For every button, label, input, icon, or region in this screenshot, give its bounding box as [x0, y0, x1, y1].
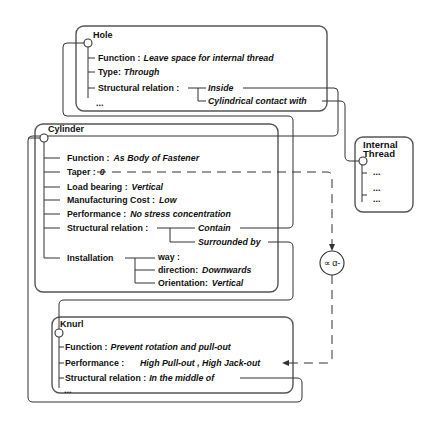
hole-relation-cylindrical-contact: Cylindrical contact with [208, 96, 307, 106]
hole-function: Function :Leave space for internal threa… [98, 53, 274, 63]
cylinder-node-dot-icon [40, 134, 48, 142]
cylinder-load-bearing: Load bearing :Vertical [67, 182, 164, 192]
installation-direction: direction:Downwards [158, 265, 252, 275]
internal-thread-title-line2: Thread [363, 148, 395, 159]
cylinder-taper: Taper :0 [67, 167, 105, 177]
hole-more: ... [96, 98, 103, 108]
internal-thread-item: ... [373, 167, 380, 177]
knurl-title: Knurl [60, 319, 84, 329]
cylinder-installation-branch [125, 258, 155, 283]
feature-semantic-diagram: ∝ α- Hole Function :Leave space for inte… [0, 0, 433, 426]
knurl-more: ... [64, 385, 71, 395]
internal-thread-tree-line [362, 165, 367, 202]
cylinder-tree-line [44, 142, 60, 258]
hole-structural-relation-label: Structural relation : [98, 83, 179, 93]
hole-relation-inside: Inside [208, 83, 234, 93]
connector-inside-to-cylinder [28, 88, 338, 402]
knurl-node-dot-icon [55, 329, 63, 337]
cylinder-relation-surrounded-by: Surrounded by [198, 237, 262, 247]
knurl-function: Function :Prevent rotation and pull-out [65, 342, 232, 352]
internal-thread-item: ... [373, 183, 380, 193]
arrow-left-icon [282, 360, 289, 366]
cylinder-installation-label: Installation [67, 253, 113, 263]
cylinder-relation-contain: Contain [198, 223, 231, 233]
hole-title: Hole [93, 30, 113, 40]
cylinder-structural-relation-label: Structural relation : [67, 223, 148, 233]
knurl-performance: Performance :High Pull-out , High Jack-o… [65, 358, 261, 368]
installation-orientation: Orientation:Vertical [158, 278, 244, 288]
hole-node-dot-icon [84, 39, 92, 47]
constraint-dashed-line-performance [288, 275, 332, 363]
connector-cylindrical-contact-to-internal-thread [322, 101, 359, 161]
installation-way: way : [157, 252, 180, 262]
cylinder-title: Cylinder [48, 124, 85, 134]
cylinder-manufacturing-cost: Manufacturing Cost :Low [67, 195, 178, 205]
knurl-structural-relation: Structural relation :In the middle of [65, 373, 215, 383]
cylinder-performance: Performance :No stress concentration [67, 209, 231, 219]
hole-tree-line [88, 47, 95, 98]
arrow-down-icon [329, 244, 335, 251]
knurl-tree-line [59, 337, 64, 388]
internal-thread-item: ... [373, 194, 380, 204]
internal-thread-node-dot-icon [359, 157, 367, 165]
constraint-symbol: ∝ α- [324, 258, 341, 268]
cylinder-relation-branch [157, 228, 195, 242]
hole-type: Type:Through [98, 67, 159, 77]
hole-relation-branch [188, 88, 206, 101]
cylinder-function: Function :As Body of Fastener [67, 153, 200, 163]
